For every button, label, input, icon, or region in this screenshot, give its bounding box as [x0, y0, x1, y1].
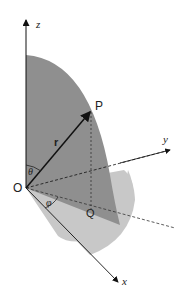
z-label: z	[35, 18, 41, 30]
y-label: y	[162, 133, 168, 145]
theta-label: θ	[28, 166, 33, 177]
r-label: r	[54, 136, 59, 148]
point-p-label: P	[95, 99, 103, 113]
diagram-canvas: z y x O P Q r θ φ	[0, 0, 179, 301]
phi-label: φ	[46, 197, 52, 208]
origin-label: O	[13, 181, 22, 195]
point-q-label: Q	[86, 207, 95, 219]
spherical-coordinates-diagram: z y x O P Q r θ φ	[0, 0, 179, 301]
x-label: x	[121, 275, 127, 287]
